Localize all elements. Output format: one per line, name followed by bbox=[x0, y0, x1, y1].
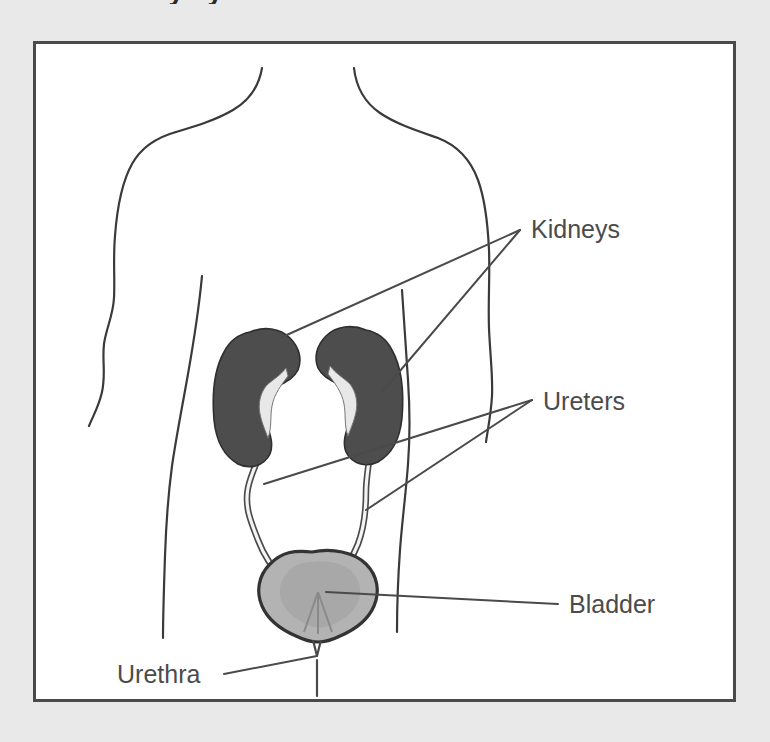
kidney-left-body bbox=[213, 329, 300, 467]
shoulder-left bbox=[115, 132, 176, 236]
leader-line-urethra bbox=[224, 656, 317, 674]
figure-page: Urinary system bbox=[0, 0, 770, 742]
leader-line-kidney-left bbox=[280, 230, 520, 338]
urethra-group bbox=[313, 640, 321, 696]
neck-left-curve bbox=[176, 68, 262, 132]
shoulder-right bbox=[438, 138, 489, 250]
neck-right-curve bbox=[354, 68, 438, 138]
figure-frame: Kidneys Ureters Bladder Urethra bbox=[33, 41, 736, 702]
arm-left bbox=[89, 236, 115, 426]
torso-waist-right bbox=[397, 290, 410, 632]
urinary-system-diagram: Kidneys Ureters Bladder Urethra bbox=[36, 44, 733, 699]
figure-title: Urinary system bbox=[86, 0, 288, 4]
torso-waist-left bbox=[163, 276, 202, 638]
label-bladder: Bladder bbox=[569, 590, 655, 618]
bladder-group bbox=[259, 551, 378, 643]
label-ureters: Ureters bbox=[543, 387, 625, 415]
kidney-left-group bbox=[213, 329, 300, 467]
label-urethra: Urethra bbox=[117, 660, 200, 688]
label-kidneys: Kidneys bbox=[531, 215, 620, 243]
